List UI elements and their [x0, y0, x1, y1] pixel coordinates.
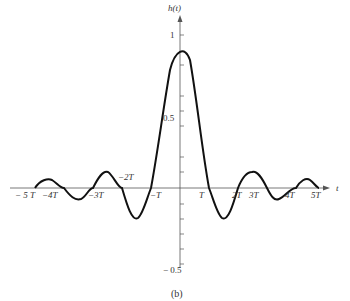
y-axis-arrow-icon [178, 15, 183, 22]
x-tick-m5: − 5 T [15, 190, 36, 200]
impulse-response-chart: h(t) t 1 0.5 − 0.5 − 5 T −4T −3T −2T −T … [0, 0, 350, 301]
x-axis-arrow-icon [323, 186, 330, 191]
y-ticks [180, 35, 184, 264]
x-tick-1: T [199, 190, 205, 200]
x-tick-m1: −T [150, 190, 162, 200]
x-axis-label: t [336, 183, 339, 193]
y-tick-1: 1 [170, 30, 175, 40]
x-tick-2: 2T [232, 190, 243, 200]
x-tick-5: 5T [311, 190, 322, 200]
figure-caption: (b) [171, 288, 183, 300]
h-t-curve [35, 51, 319, 218]
x-tick-3: 3T [248, 190, 260, 200]
y-tick-0-5: 0.5 [163, 113, 175, 123]
x-tick-m4: −4T [42, 190, 59, 200]
x-tick-m2: −2T [118, 172, 135, 182]
y-tick-neg-0-5: − 0.5 [163, 265, 182, 275]
x-tick-4: 4T [285, 190, 296, 200]
y-axis-label: h(t) [168, 3, 181, 13]
x-tick-m3: −3T [88, 190, 105, 200]
